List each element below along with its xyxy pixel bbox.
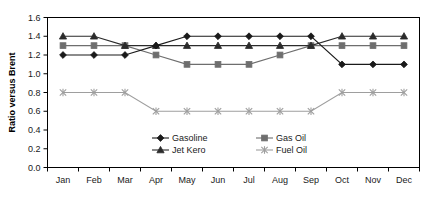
marker-diamond: [370, 61, 377, 68]
data-point: [246, 61, 252, 67]
marker-square: [91, 43, 97, 49]
legend-item-fuel-oil[interactable]: Fuel Oil: [256, 145, 307, 155]
marker-diamond: [277, 33, 284, 40]
marker-square: [370, 43, 376, 49]
data-point: [91, 43, 97, 49]
x-axis-tick-label: Jun: [211, 175, 226, 185]
data-point: [60, 43, 66, 49]
legend-label: Gas Oil: [276, 133, 306, 143]
x-axis-tick-label: May: [178, 175, 196, 185]
marker-diamond: [246, 33, 253, 40]
data-point: [401, 61, 408, 68]
x-axis-tick-label: Feb: [86, 175, 102, 185]
data-point: [277, 33, 284, 40]
marker-diamond: [184, 33, 191, 40]
data-point: [184, 33, 191, 40]
x-axis-tick-label: Aug: [272, 175, 288, 185]
legend-item-gas-oil[interactable]: Gas Oil: [256, 133, 306, 143]
marker-square: [215, 61, 221, 67]
y-axis-tick-label: 1.0: [28, 69, 41, 79]
data-point: [277, 52, 283, 58]
x-axis-tick-label: Oct: [335, 175, 350, 185]
y-axis-title: Ratio versus Brent: [7, 52, 17, 132]
legend-label: Gasoline: [172, 133, 208, 143]
y-axis: 0.00.20.40.60.81.01.21.41.6: [28, 13, 48, 173]
marker-diamond: [401, 61, 408, 68]
legend-label: Jet Kero: [172, 145, 206, 155]
series-line: [63, 93, 404, 112]
legend-label: Fuel Oil: [276, 145, 307, 155]
y-axis-tick-label: 0.8: [28, 88, 41, 98]
x-axis-tick-label: Sep: [303, 175, 319, 185]
series-fuel-oil: [60, 89, 407, 115]
y-axis-tick-label: 0.4: [28, 125, 41, 135]
x-axis-tick-label: Jul: [243, 175, 255, 185]
data-point: [370, 61, 377, 68]
data-point: [339, 43, 345, 49]
legend-marker: [157, 135, 164, 142]
x-axis-tick-label: Jan: [56, 175, 71, 185]
series-gasoline: [60, 33, 408, 68]
marker-diamond: [60, 52, 67, 59]
data-point: [370, 43, 376, 49]
data-point: [246, 33, 253, 40]
series-line: [63, 36, 404, 64]
marker-square: [277, 52, 283, 58]
marker-diamond: [215, 33, 222, 40]
line-chart: 0.00.20.40.60.81.01.21.41.6Ratio versus …: [0, 0, 436, 198]
marker-diamond: [91, 52, 98, 59]
marker-square: [153, 52, 159, 58]
chart-legend: GasolineGas OilJet KeroFuel Oil: [152, 133, 307, 155]
x-axis: JanFebMarAprMayJunJulAugSepOctNovDec: [48, 168, 420, 185]
marker-diamond: [157, 135, 164, 142]
y-axis-tick-label: 0.0: [28, 163, 41, 173]
y-axis-tick-label: 1.4: [28, 31, 41, 41]
y-axis-tick-label: 1.2: [28, 50, 41, 60]
marker-square: [262, 135, 268, 141]
x-axis-tick-label: Nov: [365, 175, 382, 185]
marker-square: [246, 61, 252, 67]
legend-marker: [262, 135, 268, 141]
y-axis-tick-label: 0.2: [28, 144, 41, 154]
chart-container: 0.00.20.40.60.81.01.21.41.6Ratio versus …: [0, 0, 436, 198]
data-point: [91, 52, 98, 59]
marker-square: [60, 43, 66, 49]
x-axis-tick-label: Dec: [396, 175, 413, 185]
y-axis-tick-label: 1.6: [28, 13, 41, 23]
series-line: [63, 36, 404, 45]
legend-item-gasoline[interactable]: Gasoline: [152, 133, 208, 143]
y-axis-tick-label: 0.6: [28, 106, 41, 116]
marker-diamond: [122, 52, 129, 59]
x-axis-tick-label: Mar: [117, 175, 133, 185]
marker-square: [401, 43, 407, 49]
data-point: [401, 43, 407, 49]
data-point: [184, 61, 190, 67]
data-point: [153, 52, 159, 58]
data-point: [215, 61, 221, 67]
data-point: [122, 52, 129, 59]
data-point: [60, 52, 67, 59]
data-point: [215, 33, 222, 40]
legend-item-jet-kero[interactable]: Jet Kero: [152, 145, 206, 155]
marker-square: [339, 43, 345, 49]
marker-square: [184, 61, 190, 67]
x-axis-tick-label: Apr: [149, 175, 163, 185]
